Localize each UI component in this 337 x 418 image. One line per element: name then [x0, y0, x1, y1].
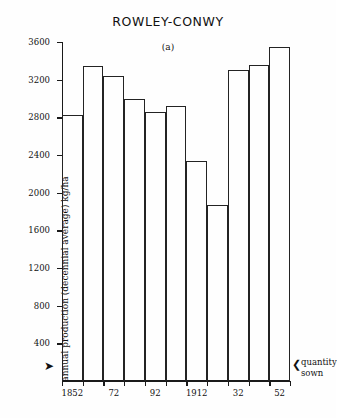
x-axis-tick [124, 381, 125, 386]
x-axis-tick [62, 381, 63, 386]
y-axis-tick-label: 2000 [16, 189, 50, 198]
bar [145, 112, 166, 381]
bar [186, 161, 207, 381]
x-axis-tick [83, 381, 84, 386]
x-axis-tick-label: 72 [94, 388, 134, 398]
y-axis-tick-label: 3600 [16, 38, 50, 47]
quantity-sown-label: quantity sown [301, 357, 337, 379]
x-axis-tick [290, 381, 291, 386]
y-axis-tick-label: 2800 [16, 113, 50, 122]
x-axis-tick-label: 32 [218, 388, 258, 398]
quantity-sown-right-arrow-icon: ❮ [292, 359, 301, 370]
bar [269, 47, 290, 381]
x-axis-tick [249, 381, 250, 386]
quantity-sown-line-2: sown [301, 368, 337, 379]
bar [62, 115, 83, 381]
y-axis-tick-label: 3200 [16, 76, 50, 85]
bar [207, 205, 228, 381]
x-axis-tick [145, 381, 146, 386]
bar [83, 66, 104, 381]
x-axis-tick [103, 381, 104, 386]
quantity-sown-line-1: quantity [301, 357, 337, 368]
bar [228, 70, 249, 381]
x-axis-tick [228, 381, 229, 386]
bar [166, 106, 187, 381]
x-axis-tick-label: 92 [135, 388, 175, 398]
x-axis-tick [269, 381, 270, 386]
x-axis-tick-label: 1912 [177, 388, 217, 398]
y-axis-tick-label: 2400 [16, 151, 50, 160]
y-axis-tick-label: 800 [16, 302, 50, 311]
y-axis-tick-label: 1600 [16, 226, 50, 235]
y-axis-tick-label: 400 [16, 339, 50, 348]
x-axis-tick [166, 381, 167, 386]
plot-area: annual production (decennial average) kg… [62, 42, 290, 381]
quantity-sown-left-arrow-icon: ➤ [44, 360, 54, 372]
y-axis-tick-label: 1200 [16, 264, 50, 273]
bar-group [62, 42, 290, 381]
x-axis-tick-label: 1852 [52, 388, 92, 398]
bar [249, 65, 270, 381]
bar [103, 76, 124, 381]
bar [124, 99, 145, 382]
x-axis-tick [186, 381, 187, 386]
x-axis-tick-label: 52 [260, 388, 300, 398]
x-axis-tick [207, 381, 208, 386]
chart-title: ROWLEY-CONWY [0, 14, 336, 29]
